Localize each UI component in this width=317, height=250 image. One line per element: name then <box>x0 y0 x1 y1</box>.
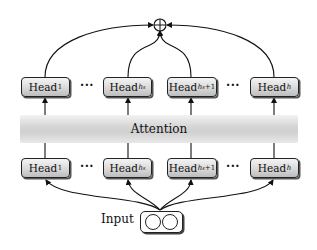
head-label: Head <box>29 81 57 93</box>
top-ellipsis-1: ··· <box>80 78 94 92</box>
attention-band: Attention <box>20 115 298 143</box>
edge-headhs-to-sum <box>128 31 160 77</box>
head-sub: h <box>287 164 292 172</box>
head-label: Head <box>258 162 286 174</box>
attention-label: Attention <box>20 115 298 143</box>
head-label: Head <box>110 162 138 174</box>
bottom-head-hs1: Headhs+1 <box>167 158 217 178</box>
head-label: Head <box>169 81 197 93</box>
edge-input-to-head1 <box>46 180 160 210</box>
head-sub: hs+1 <box>198 83 215 91</box>
edge-input-to-headhs <box>128 180 160 210</box>
input-circle-icon <box>145 214 161 230</box>
top-head-hs1: Headhs+1 <box>167 77 217 97</box>
top-ellipsis-2: ··· <box>226 78 240 92</box>
head-sub: 1 <box>58 164 62 172</box>
top-head-1: Head1 <box>21 77 70 97</box>
bottom-ellipsis-1: ··· <box>80 159 94 173</box>
bottom-head-hs: Headhs <box>103 158 152 178</box>
head-sub: hs <box>138 164 145 172</box>
edge-input-to-headh <box>160 180 273 210</box>
input-label: Input <box>101 212 134 226</box>
bottom-head-1: Head1 <box>21 158 70 178</box>
input-circle-icon <box>162 214 178 230</box>
input-vector <box>140 211 183 233</box>
bottom-head-h: Headh <box>250 158 299 178</box>
edge-head1-to-sum <box>45 25 153 77</box>
head-label: Head <box>258 81 286 93</box>
diagram-canvas: Attention Head1 ··· Headhs Headhs+1 ··· … <box>0 0 317 250</box>
head-label: Head <box>110 81 138 93</box>
head-sub: 1 <box>58 83 62 91</box>
head-sub: hs+1 <box>198 164 215 172</box>
sum-node-icon <box>154 19 166 35</box>
edge-headhs1-to-sum <box>160 31 191 77</box>
head-label: Head <box>169 162 197 174</box>
edge-input-to-headhs1 <box>160 180 191 210</box>
edge-headh-to-sum <box>167 25 274 77</box>
head-sub: h <box>287 83 292 91</box>
top-head-hs: Headhs <box>103 77 152 97</box>
head-label: Head <box>29 162 57 174</box>
top-head-h: Headh <box>250 77 299 97</box>
head-sub: hs <box>138 83 145 91</box>
bottom-ellipsis-2: ··· <box>226 159 240 173</box>
